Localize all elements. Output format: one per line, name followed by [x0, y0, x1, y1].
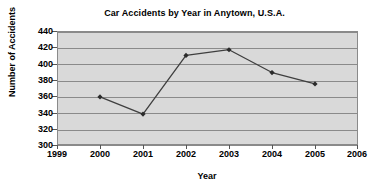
x-tick-label-2000: 2000 [77, 150, 123, 159]
x-tick-label-2006: 2006 [334, 150, 380, 159]
y-tick-label-420: 420 [23, 43, 53, 52]
gridline-360 [58, 97, 357, 98]
gridline-320 [58, 130, 357, 131]
gridline-400 [58, 64, 357, 65]
gridline-440 [58, 32, 357, 33]
x-tick-label-2004: 2004 [249, 150, 295, 159]
y-tick-label-380: 380 [23, 76, 53, 85]
x-tick-label-2005: 2005 [292, 150, 338, 159]
x-tick-label-1999: 1999 [34, 150, 80, 159]
gridline-340 [58, 113, 357, 114]
y-axis-title: Number of Accidents [7, 2, 17, 102]
plot-area [57, 31, 358, 145]
x-tick-label-2002: 2002 [163, 150, 209, 159]
y-tick-label-440: 440 [23, 27, 53, 36]
x-tick-label-2001: 2001 [120, 150, 166, 159]
x-tick-label-2003: 2003 [206, 150, 252, 159]
gridline-420 [58, 48, 357, 49]
x-axis-title: Year [56, 171, 358, 181]
y-tick-label-340: 340 [23, 109, 53, 118]
chart-container: Car Accidents by Year in Anytown, U.S.A.… [0, 0, 389, 192]
gridline-300 [58, 145, 357, 146]
gridline-380 [58, 81, 357, 82]
y-tick-label-320: 320 [23, 125, 53, 134]
chart-title: Car Accidents by Year in Anytown, U.S.A. [0, 8, 389, 18]
y-tick-label-400: 400 [23, 60, 53, 69]
y-tick-label-360: 360 [23, 92, 53, 101]
